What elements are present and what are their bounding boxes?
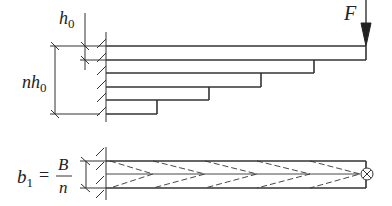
h0-label: h0 — [59, 8, 75, 31]
leaf-spring-diagram: F h0 nh0 b1 = B n — [0, 0, 392, 206]
force-arrow-head — [361, 23, 371, 46]
top-view-wall-hatching — [96, 148, 104, 198]
wall-hatching — [97, 39, 106, 116]
load-point-cross-circle-icon — [361, 168, 373, 180]
top-view-outline — [106, 161, 366, 188]
stacked-plates — [106, 46, 366, 114]
fraction-numerator: B — [58, 155, 69, 174]
plate-edge-chevrons — [110, 161, 360, 188]
b1-label: b1 — [17, 166, 33, 190]
equals-sign: = — [39, 165, 49, 185]
fraction-denominator: n — [59, 178, 68, 197]
nh0-label: nh0 — [22, 72, 47, 95]
force-label: F — [343, 2, 357, 24]
